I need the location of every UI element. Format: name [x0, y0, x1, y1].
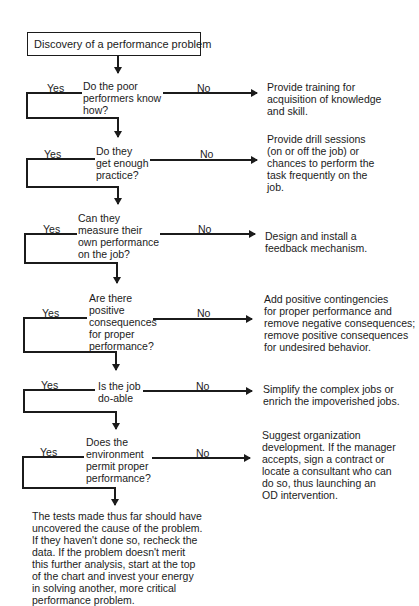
- no-label-6: No: [196, 447, 209, 459]
- yes-label-1: Yes: [47, 82, 64, 94]
- question-5: Is the job do-able: [98, 380, 141, 404]
- action-2: Provide drill sessions (on or off the jo…: [267, 133, 374, 193]
- conclusion-text: The tests made thus far should have unco…: [32, 510, 202, 606]
- action-6: Suggest organization development. If the…: [262, 429, 396, 501]
- no-label-2: No: [200, 148, 213, 160]
- no-label-5: No: [196, 380, 209, 392]
- no-label-4: No: [197, 307, 210, 319]
- action-1: Provide training for acquisition of know…: [267, 81, 381, 117]
- start-box: Discovery of a performance problem: [27, 32, 201, 56]
- question-1: Do the poor performers know how?: [83, 80, 161, 116]
- question-4: Are there positive consequences for prop…: [89, 292, 157, 352]
- yes-label-2: Yes: [44, 148, 61, 160]
- question-6: Does the environment permit proper perfo…: [86, 436, 151, 484]
- action-5: Simplify the complex jobs or enrich the …: [263, 383, 400, 407]
- start-label: Discovery of a performance problem: [34, 38, 211, 50]
- question-2: Do they get enough practice?: [96, 145, 149, 181]
- action-4: Add positive contingencies for proper pe…: [264, 293, 415, 353]
- question-3: Can they measure their own performance o…: [78, 212, 159, 260]
- no-label-3: No: [198, 223, 211, 235]
- no-label-1: No: [197, 82, 210, 94]
- action-3: Design and install a feedback mechanism.: [265, 230, 367, 254]
- yes-label-6: Yes: [40, 446, 57, 458]
- yes-label-3: Yes: [43, 223, 60, 235]
- yes-label-5: Yes: [41, 379, 58, 391]
- yes-label-4: Yes: [42, 307, 59, 319]
